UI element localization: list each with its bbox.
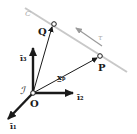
origin-label: O <box>30 99 39 109</box>
point-q-label: Q <box>38 27 47 37</box>
frame-label: ℐ <box>20 86 25 96</box>
diagram-canvas <box>0 0 137 134</box>
axis-i3-label: ī₃ <box>20 54 27 62</box>
point-p-marker <box>98 54 103 59</box>
axis-i2-label: ī₂ <box>77 93 84 101</box>
kinematics-diagram: C τ Q P x̲ₚ ī₃ ī₂ ī₁ ℐ O <box>0 0 137 134</box>
curve-c <box>25 8 127 72</box>
tangent-label: τ <box>98 34 102 42</box>
point-p-label: P <box>98 63 106 73</box>
axis-i1-label: ī₁ <box>10 122 17 130</box>
origin-marker <box>31 91 36 96</box>
point-q-marker <box>52 22 57 27</box>
vector-xp-label: x̲ₚ <box>57 73 66 81</box>
curve-label: C <box>25 10 31 18</box>
